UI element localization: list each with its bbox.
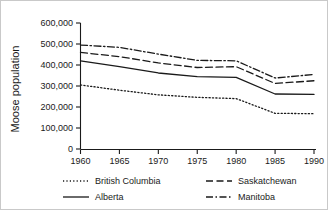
data-series-group xyxy=(81,45,315,114)
y-axis-title-label: Moose population xyxy=(9,46,21,133)
y-axis-title: Moose population xyxy=(9,46,21,133)
legend-label-british-columbia: British Columbia xyxy=(95,176,161,186)
series-line-british-columbia xyxy=(81,85,315,114)
legend-label-saskatchewan: Saskatchewan xyxy=(238,176,297,186)
legend-label-manitoba: Manitoba xyxy=(238,192,275,202)
x-axis-ticks: 1960196519701975198019851990 xyxy=(70,150,324,167)
y-tick-label: 100,000 xyxy=(40,123,73,133)
x-tick-label: 1975 xyxy=(187,156,207,166)
y-tick-label: 0 xyxy=(68,144,73,154)
x-tick-label: 1985 xyxy=(265,156,285,166)
y-tick-label: 500,000 xyxy=(40,39,73,49)
x-tick-label: 1970 xyxy=(148,156,168,166)
moose-population-chart-figure: Moose population 0100,000200,000300,0004… xyxy=(0,0,328,210)
chart-legend: British ColumbiaSaskatchewanAlbertaManit… xyxy=(63,176,297,202)
legend-label-alberta: Alberta xyxy=(95,192,124,202)
x-tick-label: 1960 xyxy=(70,156,90,166)
y-axis-ticks: 0100,000200,000300,000400,000500,000600,… xyxy=(40,18,80,154)
y-tick-label: 300,000 xyxy=(40,81,73,91)
y-tick-label: 600,000 xyxy=(40,18,73,28)
x-tick-label: 1980 xyxy=(226,156,246,166)
y-tick-label: 400,000 xyxy=(40,60,73,70)
series-line-saskatchewan xyxy=(81,52,315,83)
x-tick-label: 1965 xyxy=(109,156,129,166)
series-line-manitoba xyxy=(81,45,315,78)
x-tick-label: 1990 xyxy=(304,156,324,166)
y-tick-label: 200,000 xyxy=(40,102,73,112)
chart-canvas: Moose population 0100,000200,000300,0004… xyxy=(1,1,328,210)
